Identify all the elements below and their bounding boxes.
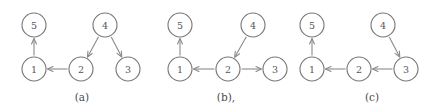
graph-node-5[interactable]: 5	[300, 13, 324, 37]
node-label: 3	[272, 64, 278, 75]
node-label: 4	[380, 20, 386, 31]
panel-b: 54123(b),	[168, 13, 287, 103]
figure-canvas: 54123(a)54123(b),54123(c)	[0, 0, 442, 109]
graph-node-4[interactable]: 4	[371, 13, 395, 37]
edge-line	[235, 37, 247, 58]
node-label: 3	[125, 64, 131, 75]
node-label: 4	[250, 20, 256, 31]
panel-caption: (b),	[217, 91, 235, 103]
graph-node-1[interactable]: 1	[22, 57, 46, 81]
panel-c: 54123(c)	[300, 13, 418, 103]
graph-node-2[interactable]: 2	[69, 57, 93, 81]
node-label: 2	[78, 64, 84, 75]
graph-node-5[interactable]: 5	[168, 13, 192, 37]
edge-2-to-3	[242, 67, 262, 72]
edge-1-to-5	[32, 39, 37, 56]
edge-2-to-1	[194, 67, 215, 72]
node-label: 4	[102, 20, 108, 31]
edge-1-to-5	[178, 39, 183, 56]
edge-2-to-1	[326, 67, 346, 72]
node-label: 2	[225, 64, 231, 75]
edge-4-to-3	[389, 37, 399, 57]
edge-1-to-5	[310, 39, 315, 56]
graph-node-3[interactable]: 3	[394, 57, 418, 81]
node-label: 1	[309, 64, 315, 75]
graph-node-1[interactable]: 1	[300, 57, 324, 81]
graph-node-2[interactable]: 2	[216, 57, 240, 81]
node-label: 5	[309, 20, 315, 31]
edge-2-to-1	[48, 67, 68, 72]
panel-a: 54123(a)	[22, 13, 140, 103]
node-label: 1	[31, 64, 37, 75]
node-label: 5	[177, 20, 183, 31]
graph-node-1[interactable]: 1	[168, 57, 192, 81]
graph-node-3[interactable]: 3	[263, 57, 287, 81]
graph-node-2[interactable]: 2	[347, 57, 371, 81]
edge-3-to-2	[373, 67, 393, 72]
edge-line	[389, 37, 399, 57]
graph-node-4[interactable]: 4	[93, 13, 117, 37]
node-label: 1	[177, 64, 183, 75]
graph-node-3[interactable]: 3	[116, 57, 140, 81]
panel-caption: (a)	[75, 91, 89, 103]
edge-line	[111, 37, 121, 57]
edge-4-to-3	[111, 37, 121, 57]
node-label: 5	[31, 20, 37, 31]
edge-line	[87, 37, 98, 57]
graph-node-5[interactable]: 5	[22, 13, 46, 37]
edge-4-to-2	[235, 37, 247, 58]
edge-4-to-2	[87, 37, 98, 57]
panel-caption: (c)	[365, 91, 379, 103]
directed-graph-figure: 54123(a)54123(b),54123(c)	[0, 0, 442, 109]
graph-node-4[interactable]: 4	[241, 13, 265, 37]
node-label: 3	[403, 64, 409, 75]
node-label: 2	[356, 64, 362, 75]
